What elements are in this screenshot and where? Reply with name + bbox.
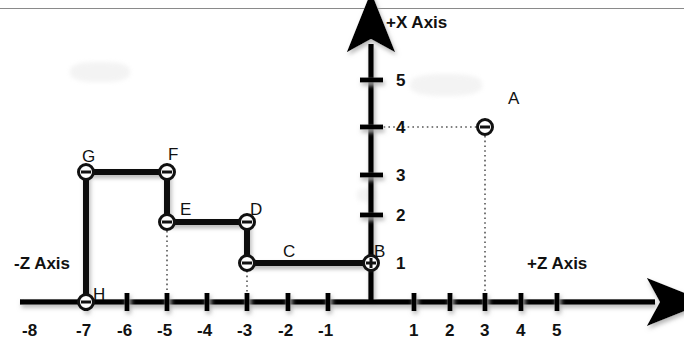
x-tick-label-3: 3 [396, 167, 405, 184]
z-tick-label--3: -3 [237, 322, 252, 339]
x-tick-label-5: 5 [396, 72, 405, 89]
x-tick-label-2: 2 [396, 207, 405, 224]
z-tick-label--4: -4 [197, 322, 212, 339]
z-tick-label-3: 3 [480, 322, 489, 339]
point-label-H: H [93, 286, 105, 303]
marker-F [160, 165, 175, 180]
stepped-path [86, 172, 371, 302]
z-tick-label--8: -8 [22, 322, 37, 339]
marker-A [478, 120, 493, 135]
point-label-F: F [168, 146, 178, 163]
x-tick-label-4: 4 [396, 119, 405, 136]
point-label-B: B [374, 243, 385, 260]
point-markers [79, 120, 493, 310]
z-tick-label-2: 2 [445, 322, 454, 339]
marker-E [160, 215, 175, 230]
marker-G [79, 165, 94, 180]
x-axis-label: +X Axis [386, 14, 447, 31]
z-axis-negative-label: -Z Axis [14, 255, 70, 272]
x-tick-label-1: 1 [396, 255, 405, 272]
coordinate-diagram: +X Axis +Z Axis -Z Axis -8 -7 -6 -5 -4 -… [0, 0, 684, 353]
z-tick-label--5: -5 [157, 322, 172, 339]
z-tick-label-1: 1 [409, 322, 418, 339]
z-axis-positive-label: +Z Axis [527, 255, 587, 272]
marker-C [240, 256, 255, 271]
z-tick-label--6: -6 [117, 322, 132, 339]
z-tick-label--1: -1 [318, 322, 333, 339]
z-tick-label-5: 5 [552, 322, 561, 339]
z-tick-label--2: -2 [278, 322, 293, 339]
z-tick-label--7: -7 [76, 322, 91, 339]
guide-lines [167, 127, 485, 300]
point-label-D: D [250, 201, 262, 218]
marker-H [79, 295, 94, 310]
z-tick-label-4: 4 [516, 322, 525, 339]
point-label-C: C [283, 243, 295, 260]
point-label-A: A [508, 90, 519, 107]
point-label-G: G [82, 148, 95, 165]
point-label-E: E [180, 201, 191, 218]
